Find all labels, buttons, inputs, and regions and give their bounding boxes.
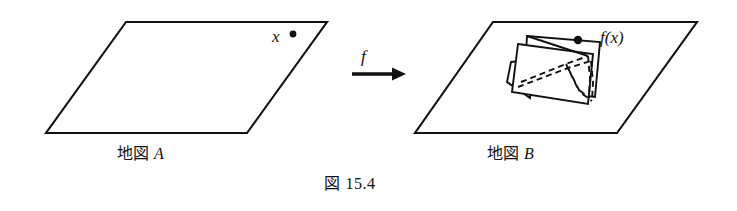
caption-map-b-cjk: 地図 bbox=[487, 146, 519, 162]
caption-map-a: 地図A bbox=[117, 146, 164, 162]
figure-caption-number: 15.4 bbox=[346, 176, 376, 192]
caption-map-a-letter: A bbox=[154, 146, 164, 162]
caption-map-b: 地図B bbox=[487, 146, 534, 162]
mapping-arrow-label-f: f bbox=[361, 48, 366, 65]
figure-container: x f f(x) 地図A 地図B 図15.4 bbox=[0, 0, 737, 211]
caption-map-a-cjk: 地図 bbox=[117, 146, 149, 162]
right-arrow-icon bbox=[352, 68, 406, 81]
caption-map-b-letter: B bbox=[524, 146, 534, 162]
point-label-x: x bbox=[272, 28, 280, 45]
figure-caption-cjk: 図 bbox=[324, 176, 341, 192]
figure-caption: 図15.4 bbox=[324, 176, 376, 192]
dot-marker-x bbox=[290, 31, 297, 38]
dot-marker-fx bbox=[574, 36, 582, 44]
point-label-fx: f(x) bbox=[600, 29, 624, 46]
parallelogram-map-a bbox=[46, 22, 327, 133]
